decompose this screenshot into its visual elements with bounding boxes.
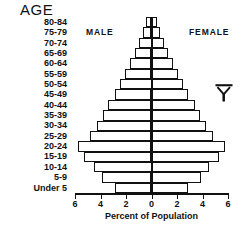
male-bar <box>103 110 151 120</box>
age-group-label: Under 5 <box>0 183 72 193</box>
female-bar <box>152 183 189 193</box>
age-group-label: 30-34 <box>0 120 72 130</box>
percent-axis: 6420246 <box>75 193 228 194</box>
age-group-label: 55-59 <box>0 69 72 79</box>
axis-tick-label: 2 <box>123 199 128 209</box>
male-bar <box>139 38 152 48</box>
pyramid-row <box>75 79 228 89</box>
age-group-label: 50-54 <box>0 79 72 89</box>
female-bar <box>152 100 195 110</box>
age-group-label: 35-39 <box>0 110 72 120</box>
pyramid-row <box>75 38 228 48</box>
male-bar <box>108 100 151 110</box>
y-overbar-symbol-icon <box>212 80 236 104</box>
pyramid-row <box>75 100 228 110</box>
male-bar <box>78 141 152 151</box>
female-bar <box>152 152 220 162</box>
axis-tick-label: 0 <box>149 199 154 209</box>
pyramid-row <box>75 172 228 182</box>
age-axis-labels: 80-8475-7970-7465-6960-6455-5950-5445-49… <box>0 17 72 193</box>
male-bar <box>143 27 152 37</box>
pyramid-row <box>75 141 228 151</box>
male-legend-label: MALE <box>86 27 114 37</box>
age-group-label: 80-84 <box>0 17 72 27</box>
female-bar <box>152 162 209 172</box>
pyramid-row <box>75 58 228 68</box>
male-bar <box>97 121 152 131</box>
male-bar <box>115 89 152 99</box>
male-bar <box>102 172 152 182</box>
female-bar <box>152 121 207 131</box>
female-bar <box>152 89 189 99</box>
axis-tick-label: 4 <box>98 199 103 209</box>
female-bar <box>152 58 174 68</box>
pyramid-row <box>75 17 228 27</box>
axis-caption: Percent of Population <box>75 211 228 221</box>
pyramid-row <box>75 183 228 193</box>
female-bar <box>152 131 213 141</box>
pyramid-row <box>75 121 228 131</box>
age-group-label: 70-74 <box>0 38 72 48</box>
female-bar <box>152 110 200 120</box>
age-group-label: 10-14 <box>0 162 72 172</box>
female-bar <box>152 69 179 79</box>
female-bar <box>152 172 202 182</box>
axis-tick-label: 4 <box>200 199 205 209</box>
age-group-label: 40-44 <box>0 100 72 110</box>
female-bar <box>152 141 226 151</box>
axis-tick-label: 6 <box>225 199 230 209</box>
pyramid-plot-area <box>75 17 228 193</box>
age-group-label: 20-24 <box>0 141 72 151</box>
age-group-label: 75-79 <box>0 27 72 37</box>
male-bar <box>115 183 152 193</box>
pyramid-row <box>75 162 228 172</box>
pyramid-row <box>75 69 228 79</box>
population-pyramid-figure: AGE 80-8475-7970-7465-6960-6455-5950-544… <box>0 0 244 237</box>
age-group-label: 15-19 <box>0 151 72 161</box>
female-bar <box>152 48 169 58</box>
female-legend-label: FEMALE <box>189 27 229 37</box>
page-title: AGE <box>20 2 53 17</box>
male-bar <box>90 131 151 141</box>
pyramid-row <box>75 48 228 58</box>
pyramid-row <box>75 152 228 162</box>
male-bar <box>84 152 152 162</box>
female-bar <box>152 38 165 48</box>
pyramid-row <box>75 89 228 99</box>
age-group-label: 60-64 <box>0 58 72 68</box>
male-bar <box>120 79 152 89</box>
male-bar <box>130 58 152 68</box>
age-group-label: 5-9 <box>0 172 72 182</box>
male-bar <box>94 162 151 172</box>
axis-tick-label: 2 <box>174 199 179 209</box>
pyramid-row <box>75 110 228 120</box>
male-bar <box>135 48 152 58</box>
age-group-label: 45-49 <box>0 89 72 99</box>
female-bar <box>152 79 184 89</box>
male-bar <box>125 69 152 79</box>
age-group-label: 25-29 <box>0 131 72 141</box>
female-bar <box>152 27 161 37</box>
axis-tick-label: 6 <box>72 199 77 209</box>
pyramid-row <box>75 131 228 141</box>
age-group-label: 65-69 <box>0 48 72 58</box>
female-bar <box>152 17 157 27</box>
